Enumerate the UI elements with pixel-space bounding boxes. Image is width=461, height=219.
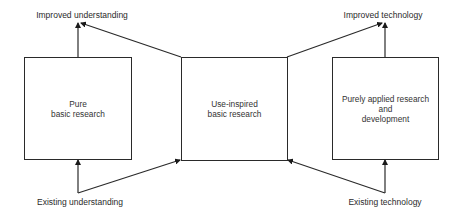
box-pure-basic-research: Pure basic research [24,57,132,160]
diagram-canvas: Pure basic research Use-inspired basic r… [0,0,461,219]
box-label: Purely applied research and development [342,94,429,124]
label-improved-technology: Improved technology [344,10,423,20]
box-label: Pure basic research [51,99,105,119]
arrow-use-inspired-to-improved-technology [287,23,382,57]
label-existing-technology: Existing technology [348,197,421,207]
box-label: Use-inspired basic research [208,99,262,119]
box-use-inspired-basic-research: Use-inspired basic research [181,57,288,161]
box-purely-applied-research: Purely applied research and development [332,57,439,160]
arrow-existing-understanding-to-use-inspired [78,160,180,193]
arrow-use-inspired-to-improved-understanding [81,23,181,57]
label-existing-understanding: Existing understanding [37,197,123,207]
arrow-existing-technology-to-use-inspired [288,160,385,193]
label-improved-understanding: Improved understanding [36,10,128,20]
